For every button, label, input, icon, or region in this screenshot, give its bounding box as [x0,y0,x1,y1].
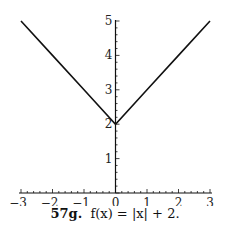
x-tick-label: 0 [112,196,120,206]
x-tick-label: 1 [143,196,151,206]
x-tick-label: −1 [72,196,90,206]
x-tick-label: 2 [175,196,183,206]
y-tick-label: 3 [105,83,113,97]
figure-number: 57g. [50,206,82,221]
x-tick-label: 3 [206,196,214,206]
y-tick-label: 1 [105,152,113,166]
function-plot: −3−2−1012312345 [0,0,230,206]
y-tick-label: 4 [105,48,113,62]
figure-formula: f(x) = |x| + 2. [90,206,179,221]
y-tick-label: 5 [105,14,113,28]
x-tick-label: −2 [41,196,59,206]
figure-caption: 57g. f(x) = |x| + 2. [0,206,230,221]
x-tick-label: −3 [9,196,27,206]
